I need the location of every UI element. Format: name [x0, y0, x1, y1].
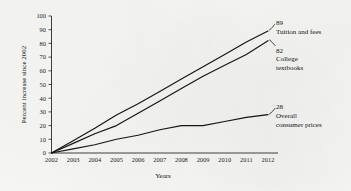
y-axis-title: Percent increase since 2002 — [20, 45, 28, 123]
y-tick-label-40: 40 — [40, 95, 46, 102]
x-tick-label-2011: 2011 — [240, 156, 253, 163]
axes-group — [52, 16, 279, 153]
annotation-value-overall-consumer-prices: 28 — [276, 103, 284, 111]
annotation-college-textbooks: 82 College textbooks — [276, 47, 303, 73]
y-tick-label-20: 20 — [40, 122, 46, 129]
y-tick-label-60: 60 — [40, 67, 46, 74]
y-tick-label-30: 30 — [40, 108, 46, 115]
x-tick-label-2008: 2008 — [175, 156, 188, 163]
y-tick-label-80: 80 — [40, 40, 46, 47]
annotation-leaders — [270, 25, 276, 114]
y-tick-label-50: 50 — [40, 81, 46, 88]
x-tick-label-2012: 2012 — [262, 156, 275, 163]
annotation-overall-consumer-prices: 28 Overall consumer prices — [276, 103, 322, 129]
series-line-overall-consumer-prices — [52, 115, 269, 153]
x-axis-title: Years — [155, 172, 171, 180]
x-tick-label-2006: 2006 — [132, 156, 145, 163]
annotation-label-overall-consumer-prices-line2: consumer prices — [276, 121, 322, 129]
x-tick-label-2003: 2003 — [67, 156, 80, 163]
x-tick-label-2002: 2002 — [45, 156, 58, 163]
annotation-value-tuition-and-fees: 89 — [276, 19, 284, 27]
x-tick-label-2005: 2005 — [110, 156, 123, 163]
y-tick-label-90: 90 — [40, 26, 46, 33]
annotation-label-college-textbooks-line1: College — [276, 55, 298, 63]
annotation-label-college-textbooks-line2: textbooks — [276, 64, 303, 72]
series-line-college-textbooks — [52, 41, 269, 153]
y-axis-tick-labels: 0 10 20 30 40 50 60 70 80 90 100 — [36, 12, 46, 156]
leader-line-tuition-and-fees — [270, 25, 275, 30]
annotation-tuition-and-fees: 89 Tuition and fees — [276, 19, 322, 36]
x-tick-label-2010: 2010 — [218, 156, 231, 163]
y-tick-label-10: 10 — [40, 136, 46, 143]
line-chart: 0 10 20 30 40 50 60 70 80 90 100 Percent… — [0, 0, 351, 191]
x-tick-label-2009: 2009 — [197, 156, 210, 163]
x-tick-label-2004: 2004 — [88, 156, 102, 163]
y-tick-label-70: 70 — [40, 53, 46, 60]
annotation-label-overall-consumer-prices-line1: Overall — [276, 112, 297, 120]
leader-line-overall-consumer-prices — [270, 108, 276, 114]
leader-line-college-textbooks — [270, 40, 276, 46]
chart-figure: 0 10 20 30 40 50 60 70 80 90 100 Percent… — [0, 0, 351, 191]
y-tick-label-100: 100 — [36, 12, 46, 19]
x-axis-tick-labels: 2002 2003 2004 2005 2006 2007 2008 2009 … — [45, 156, 274, 163]
annotation-label-tuition-and-fees: Tuition and fees — [276, 28, 322, 36]
annotation-value-college-textbooks: 82 — [276, 47, 284, 55]
x-tick-label-2007: 2007 — [153, 156, 167, 163]
series-group — [52, 31, 269, 153]
series-line-tuition-and-fees — [52, 31, 269, 153]
